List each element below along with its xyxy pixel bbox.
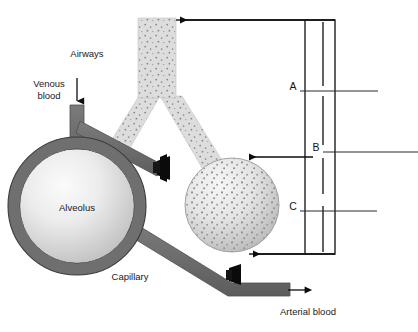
capillary-label: Capillary [112,271,149,282]
alveolus-label: Alveolus [59,202,95,213]
bracket-label-b: B [312,141,319,153]
airways-label: Airways [70,48,104,59]
arterial-blood-label: Arterial blood [280,306,336,317]
bracket-label-c: C [289,200,297,212]
venous-blood-label-line2: blood [37,90,60,101]
venous-blood-label-line1: Venous [33,78,65,89]
right-alveolus-speckles [186,159,279,252]
trachea [138,18,176,98]
right-alveolus-group [185,158,279,252]
clamp-upper [153,154,170,182]
bracket-label-a: A [289,80,296,92]
diagram-canvas: Airways Venous blood Alveolus Capillary … [0,0,418,332]
